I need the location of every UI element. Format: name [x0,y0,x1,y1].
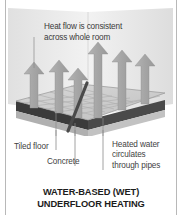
label-tiled-floor: Tiled floor [14,142,49,152]
figure-caption-line2: UNDERFLOOR HEATING [8,198,174,210]
heat-flow-note-line1: Heat flow is consistent [44,22,122,31]
label-heated-water-line3: through pipes [112,161,160,170]
label-concrete-text: Concrete [47,157,79,166]
figure-caption-line1: WATER-BASED (WET) [43,187,139,197]
heat-flow-note: Heat flow is consistent across whole roo… [44,22,149,43]
heat-flow-note-line2: across whole room [44,33,110,42]
label-concrete: Concrete [47,157,79,167]
underfloor-heating-figure: Heat flow is consistent across whole roo… [0,0,182,215]
label-heated-water: Heated water circulates through pipes [112,140,174,171]
figure-caption: WATER-BASED (WET) UNDERFLOOR HEATING [8,186,174,210]
label-heated-water-line1: Heated water [112,140,160,149]
label-tiled-floor-text: Tiled floor [14,142,49,151]
label-heated-water-line2: circulates [112,150,146,159]
